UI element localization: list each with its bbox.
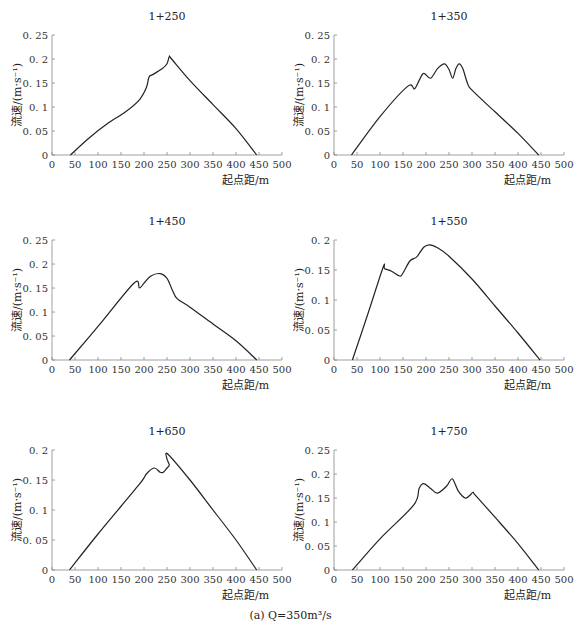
velocity-line bbox=[69, 274, 256, 360]
y-axis-label: 流速/(m·s⁻¹) bbox=[8, 478, 24, 542]
y-tick-label: 0. 1 bbox=[29, 505, 48, 516]
y-tick-label: 0. 05 bbox=[23, 331, 48, 342]
x-tick-label: 200 bbox=[416, 159, 435, 170]
x-tick-label: 350 bbox=[485, 364, 504, 375]
y-axis-label: 流速/(m·s⁻¹) bbox=[8, 63, 24, 127]
y-tick-label: 0 bbox=[42, 150, 48, 161]
figure-caption: (a) Q=350m³/s bbox=[0, 609, 581, 622]
x-tick-label: 400 bbox=[226, 159, 245, 170]
chart-panel-1-350: 1+35005010015020025030035040045050000. 0… bbox=[290, 0, 580, 200]
y-axis-label: 流速/(m·s⁻¹) bbox=[8, 268, 24, 332]
x-tick-label: 0 bbox=[49, 159, 55, 170]
x-tick-label: 350 bbox=[203, 574, 222, 585]
y-tick-label: 0. 25 bbox=[23, 235, 48, 246]
y-tick-label: 0. 15 bbox=[23, 475, 48, 486]
y-tick-label: 0. 15 bbox=[305, 78, 330, 89]
x-tick-label: 100 bbox=[88, 159, 107, 170]
axes bbox=[52, 240, 282, 360]
x-tick-label: 150 bbox=[111, 574, 130, 585]
y-tick-label: 0. 1 bbox=[29, 307, 48, 318]
x-axis-label: 起点距/m bbox=[222, 376, 269, 392]
line-chart: 05010015020025030035040045050000. 050. 1… bbox=[0, 400, 290, 600]
x-tick-label: 250 bbox=[439, 159, 458, 170]
x-tick-label: 0 bbox=[331, 574, 337, 585]
x-tick-label: 150 bbox=[111, 364, 130, 375]
y-tick-label: 0. 15 bbox=[305, 493, 330, 504]
x-tick-label: 250 bbox=[439, 574, 458, 585]
x-tick-label: 500 bbox=[272, 574, 291, 585]
x-axis-label: 起点距/m bbox=[504, 586, 551, 602]
y-tick-label: 0. 2 bbox=[29, 259, 48, 270]
line-chart: 05010015020025030035040045050000. 050. 1… bbox=[290, 400, 580, 600]
x-tick-label: 0 bbox=[331, 159, 337, 170]
y-tick-label: 0. 15 bbox=[23, 78, 48, 89]
line-chart: 05010015020025030035040045050000. 050. 1… bbox=[290, 200, 580, 400]
velocity-line bbox=[352, 245, 540, 360]
velocity-line bbox=[70, 56, 256, 155]
y-axis-label: 流速/(m·s⁻¹) bbox=[290, 268, 306, 332]
x-tick-label: 100 bbox=[370, 364, 389, 375]
x-tick-label: 300 bbox=[180, 574, 199, 585]
x-tick-label: 0 bbox=[331, 364, 337, 375]
x-tick-label: 400 bbox=[508, 159, 527, 170]
x-tick-label: 500 bbox=[272, 364, 291, 375]
x-tick-label: 150 bbox=[393, 159, 412, 170]
y-tick-label: 0 bbox=[324, 565, 330, 576]
line-chart: 05010015020025030035040045050000. 050. 1… bbox=[0, 200, 290, 400]
x-tick-label: 500 bbox=[272, 159, 291, 170]
y-tick-label: 0 bbox=[324, 150, 330, 161]
x-tick-label: 200 bbox=[134, 159, 153, 170]
x-tick-label: 250 bbox=[157, 574, 176, 585]
y-tick-label: 0. 15 bbox=[305, 265, 330, 276]
x-axis-label: 起点距/m bbox=[504, 171, 551, 187]
x-tick-label: 500 bbox=[554, 159, 573, 170]
x-tick-label: 200 bbox=[416, 364, 435, 375]
y-tick-label: 0. 1 bbox=[311, 295, 330, 306]
x-tick-label: 50 bbox=[351, 364, 364, 375]
velocity-line bbox=[351, 64, 538, 155]
y-tick-label: 0. 2 bbox=[29, 445, 48, 456]
x-tick-label: 400 bbox=[226, 364, 245, 375]
chart-panel-1-250: 1+25005010015020025030035040045050000. 0… bbox=[0, 0, 290, 200]
x-tick-label: 300 bbox=[462, 574, 481, 585]
y-tick-label: 0. 25 bbox=[305, 30, 330, 41]
x-tick-label: 50 bbox=[69, 159, 82, 170]
y-tick-label: 0. 1 bbox=[311, 517, 330, 528]
x-tick-label: 200 bbox=[134, 574, 153, 585]
y-tick-label: 0. 05 bbox=[305, 325, 330, 336]
y-tick-label: 0. 25 bbox=[305, 445, 330, 456]
x-tick-label: 300 bbox=[462, 364, 481, 375]
x-tick-label: 450 bbox=[531, 159, 550, 170]
x-tick-label: 100 bbox=[370, 574, 389, 585]
x-tick-label: 250 bbox=[157, 159, 176, 170]
y-axis-label: 流速/(m·s⁻¹) bbox=[290, 478, 306, 542]
x-axis-label: 起点距/m bbox=[504, 376, 551, 392]
y-tick-label: 0. 05 bbox=[23, 126, 48, 137]
x-tick-label: 350 bbox=[485, 159, 504, 170]
y-tick-label: 0. 2 bbox=[29, 54, 48, 65]
x-tick-label: 350 bbox=[203, 364, 222, 375]
x-axis-label: 起点距/m bbox=[222, 586, 269, 602]
x-tick-label: 200 bbox=[416, 574, 435, 585]
x-tick-label: 350 bbox=[203, 159, 222, 170]
y-tick-label: 0. 15 bbox=[23, 283, 48, 294]
axes bbox=[334, 240, 564, 360]
x-tick-label: 400 bbox=[508, 364, 527, 375]
x-tick-label: 450 bbox=[249, 159, 268, 170]
x-tick-label: 100 bbox=[88, 574, 107, 585]
x-tick-label: 400 bbox=[508, 574, 527, 585]
chart-panel-1-450: 1+45005010015020025030035040045050000. 0… bbox=[0, 200, 290, 400]
chart-panel-1-550: 1+55005010015020025030035040045050000. 0… bbox=[290, 200, 580, 400]
x-tick-label: 250 bbox=[157, 364, 176, 375]
x-tick-label: 50 bbox=[351, 159, 364, 170]
x-tick-label: 400 bbox=[226, 574, 245, 585]
y-tick-label: 0. 2 bbox=[311, 54, 330, 65]
velocity-line bbox=[352, 479, 538, 570]
axes bbox=[52, 35, 282, 155]
line-chart: 05010015020025030035040045050000. 050. 1… bbox=[0, 0, 290, 200]
y-tick-label: 0. 25 bbox=[23, 30, 48, 41]
x-axis-label: 起点距/m bbox=[222, 171, 269, 187]
velocity-line bbox=[69, 453, 256, 570]
x-tick-label: 100 bbox=[370, 159, 389, 170]
y-tick-label: 0. 1 bbox=[311, 102, 330, 113]
